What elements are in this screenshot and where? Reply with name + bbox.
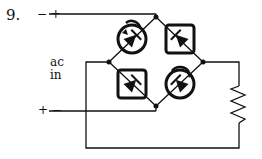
node-left <box>107 60 112 65</box>
node-top <box>154 15 159 20</box>
node-bottom <box>154 104 159 109</box>
output-wire-left <box>86 62 239 148</box>
bridge-rectifier-diagram <box>0 0 262 159</box>
diode-d1-circled <box>118 21 146 53</box>
load-resistor <box>231 86 245 123</box>
output-wire-right <box>203 62 239 86</box>
diode-d4-circled <box>166 67 194 98</box>
node-right <box>201 60 206 65</box>
